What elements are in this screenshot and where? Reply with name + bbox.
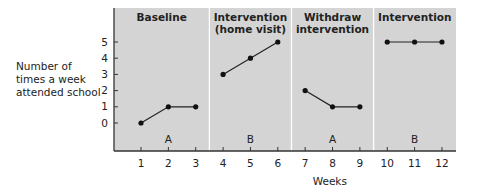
data-point-week-5 <box>248 56 253 61</box>
data-point-week-4 <box>220 72 225 77</box>
data-point-week-1 <box>138 120 143 125</box>
x-tick-label-7: 7 <box>302 157 309 169</box>
x-tick-label-2: 2 <box>165 157 172 169</box>
phase-letter: B <box>247 133 254 145</box>
data-point-week-6 <box>275 39 280 44</box>
x-tick-label-1: 1 <box>138 157 145 169</box>
y-tick-label-1: 1 <box>101 100 108 112</box>
data-point-week-10 <box>385 39 390 44</box>
x-tick-label-8: 8 <box>329 157 336 169</box>
y-tick-label-4: 4 <box>101 52 108 64</box>
phase-title-line-2: (home visit) <box>215 23 286 35</box>
x-tick-label-10: 10 <box>381 157 394 169</box>
data-point-week-3 <box>193 104 198 109</box>
data-point-week-11 <box>412 39 417 44</box>
x-axis-label: Weeks <box>313 175 347 187</box>
phase-title-line-2: intervention <box>296 23 369 35</box>
y-tick-label-3: 3 <box>101 68 108 80</box>
x-tick-label-12: 12 <box>435 157 448 169</box>
phase-title-line-1: Baseline <box>137 11 187 23</box>
phase-title-line-1: Withdraw <box>304 11 361 23</box>
phase-line-chart: 012345123456789101112WeeksBaselineAInter… <box>0 0 478 190</box>
x-tick-label-3: 3 <box>192 157 199 169</box>
y-tick-label-2: 2 <box>101 84 108 96</box>
data-point-week-8 <box>330 104 335 109</box>
data-point-week-9 <box>357 104 362 109</box>
y-tick-label-0: 0 <box>101 117 108 129</box>
x-tick-label-9: 9 <box>357 157 364 169</box>
phase-letter: A <box>329 133 337 145</box>
phase-letter: B <box>411 133 418 145</box>
x-tick-label-5: 5 <box>247 157 254 169</box>
data-point-week-7 <box>303 88 308 93</box>
x-tick-label-4: 4 <box>220 157 227 169</box>
data-point-week-2 <box>166 104 171 109</box>
phase-title-line-1: Intervention <box>378 11 451 23</box>
phase-letter: A <box>165 133 173 145</box>
x-tick-label-6: 6 <box>274 157 281 169</box>
y-tick-label-5: 5 <box>101 36 108 48</box>
data-point-week-12 <box>439 39 444 44</box>
x-tick-label-11: 11 <box>408 157 421 169</box>
phase-title-line-1: Intervention <box>214 11 287 23</box>
